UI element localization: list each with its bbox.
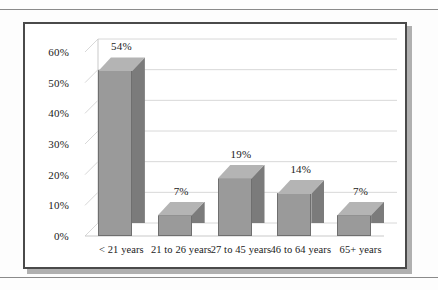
bar-column[interactable] [218,165,265,236]
bar-column[interactable] [337,202,384,236]
plot-area: 0%10%20%30%40%50%60% 54%7%19%14%7% < 21 … [25,24,405,267]
x-axis-category-label: 65+ years [340,244,382,255]
x-axis-category-label: < 21 years [99,244,144,255]
page-rule-top [0,9,438,10]
bar-front-face [337,215,371,236]
bar-column[interactable] [158,202,205,236]
bar-column[interactable] [277,180,324,236]
x-axis-category-label: 46 to 64 years [270,244,331,255]
page-rule-bottom [0,277,438,278]
bar-side-face [132,57,145,223]
bar-column[interactable] [98,57,145,236]
x-axis-category-label: 27 to 45 years [211,244,272,255]
bar-front-face [218,178,252,236]
bar-value-label: 7% [174,185,189,197]
bar-front-face [277,193,311,236]
bar-value-label: 54% [111,40,132,52]
x-axis-category-labels: < 21 years21 to 26 years27 to 45 years46… [25,238,405,267]
bar-front-face [158,215,192,236]
bar-value-label: 7% [353,185,368,197]
bars-group: 54%7%19%14%7% [25,24,405,267]
bar-value-label: 14% [290,163,311,175]
bar-value-label: 19% [231,148,252,160]
page-canvas: 0%10%20%30%40%50%60% 54%7%19%14%7% < 21 … [0,0,438,290]
bar-front-face [98,70,132,236]
x-axis-category-label: 21 to 26 years [151,244,212,255]
chart-frame: 0%10%20%30%40%50%60% 54%7%19%14%7% < 21 … [23,22,407,269]
